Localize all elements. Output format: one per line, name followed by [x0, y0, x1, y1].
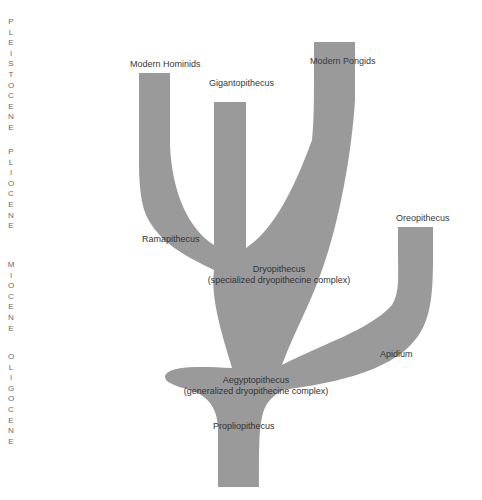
label-dryopithecus-note: (specialized dryopithecine complex) [208, 275, 351, 286]
label-gigantopithecus: Gigantopithecus [209, 78, 274, 89]
label-modern-hominids: Modern Hominids [130, 59, 201, 70]
label-aegyptopithecus-note: (generalized dryopithecine complex) [184, 386, 329, 397]
label-ramapithecus: Ramapithecus [142, 234, 200, 245]
label-apidium: Apidium [380, 349, 413, 360]
label-propliopithecus: Propliopithecus [213, 421, 275, 432]
label-dryopithecus: Dryopithecus [253, 264, 306, 275]
label-modern-pongids: Modern Pongids [310, 56, 376, 67]
label-oreopithecus: Oreopithecus [396, 213, 450, 224]
label-aegyptopithecus: Aegyptopithecus [223, 375, 290, 386]
